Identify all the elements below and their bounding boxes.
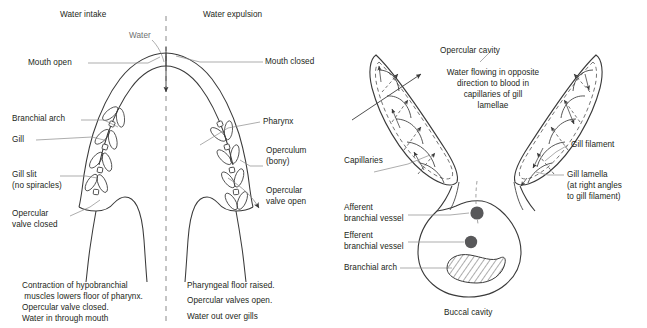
flow-note-line3: capillaries of gill xyxy=(418,90,568,101)
label-efferent-sub: branchial vessel xyxy=(344,242,404,253)
caption-right-line3: Water out over gills xyxy=(187,312,258,323)
leader-afferent xyxy=(408,213,469,215)
caption-left-line3: Opercular valve closed. xyxy=(22,303,109,314)
label-afferent-sub: branchial vessel xyxy=(344,214,404,225)
label-gill-lamella: Gill lamella xyxy=(567,170,608,181)
water-leader xyxy=(152,40,164,62)
leader-operculum xyxy=(240,160,263,166)
leader-gill xyxy=(36,137,104,140)
inner-jaw-right xyxy=(166,66,233,165)
label-operculum: Operculum xyxy=(266,146,307,157)
flow-note-line1: Water flowing in opposite xyxy=(418,68,568,79)
label-opercular-valve-open-sub: valve open xyxy=(266,197,306,208)
body-left xyxy=(79,197,147,282)
stalk-left xyxy=(437,186,452,211)
label-pharynx: Pharynx xyxy=(263,117,293,128)
figure-root: Water intake Water expulsion Water Mouth… xyxy=(0,0,647,328)
caption-right-line2: Opercular valves open. xyxy=(187,296,272,307)
label-water: Water xyxy=(129,31,151,42)
leader-gill-filament xyxy=(545,145,568,161)
label-gill-slit-sub: (no spiracles) xyxy=(12,181,62,192)
branchial-arch-hatched xyxy=(447,255,505,283)
caption-left-line2: muscles lowers floor of pharynx. xyxy=(22,292,143,303)
label-branchial-arch: Branchial arch xyxy=(12,114,65,125)
flow-note-line4: lamellae xyxy=(418,101,568,112)
stalk-right xyxy=(520,186,535,211)
head-outline-left xyxy=(79,53,166,207)
leader-mouth-open xyxy=(88,57,160,63)
label-gill-lamella-sub1: (at right angles xyxy=(567,181,622,192)
label-gill-filament: Gill filament xyxy=(571,140,614,151)
label-gill: Gill xyxy=(12,135,24,146)
label-operculum-sub: (bony) xyxy=(266,157,290,168)
label-capillaries: Capillaries xyxy=(344,156,383,167)
water-out-arrow xyxy=(228,178,259,208)
label-mouth-closed: Mouth closed xyxy=(265,57,314,68)
caption-right-line1: Pharyngeal floor raised. xyxy=(187,281,275,292)
caption-left-line1: Contraction of hypobranchial xyxy=(22,281,128,292)
leader-pharynx xyxy=(200,122,260,145)
leader-gill-lamella xyxy=(536,172,564,175)
afferent-branchial-vessel xyxy=(470,206,483,219)
head-outline-right xyxy=(166,53,253,207)
label-afferent: Afferent xyxy=(344,203,373,214)
label-efferent: Efferent xyxy=(344,231,373,242)
efferent-branchial-vessel xyxy=(465,236,477,248)
label-gill-lamella-sub2: to gill filament) xyxy=(567,192,621,203)
flow-note-line2: direction to blood in xyxy=(418,79,568,90)
gill-group-left xyxy=(82,101,131,196)
inner-jaw-left xyxy=(99,66,166,165)
caption-left-line4: Water in through mouth xyxy=(22,314,108,325)
label-buccal-cavity: Buccal cavity xyxy=(444,308,492,319)
flank-left xyxy=(86,211,96,282)
body-right xyxy=(185,197,253,282)
stalk-inner-right xyxy=(514,182,523,210)
header-water-expulsion: Water expulsion xyxy=(203,10,262,21)
label-gill-slit: Gill slit xyxy=(12,170,37,181)
gill-group-right xyxy=(207,117,252,213)
label-opercular-valve-closed: Opercular xyxy=(12,209,48,220)
flank-right xyxy=(236,211,246,282)
label-opercular-valve-open: Opercular xyxy=(266,186,302,197)
leader-mouth-closed xyxy=(176,56,263,62)
header-water-intake: Water intake xyxy=(60,10,106,21)
label-opercular-cavity: Opercular cavity xyxy=(440,46,500,57)
label-branchial-arch-right: Branchial arch xyxy=(344,263,397,274)
label-mouth-open: Mouth open xyxy=(28,58,72,69)
label-opercular-valve-closed-sub: valve closed xyxy=(12,220,58,231)
diagram-canvas xyxy=(0,0,647,328)
